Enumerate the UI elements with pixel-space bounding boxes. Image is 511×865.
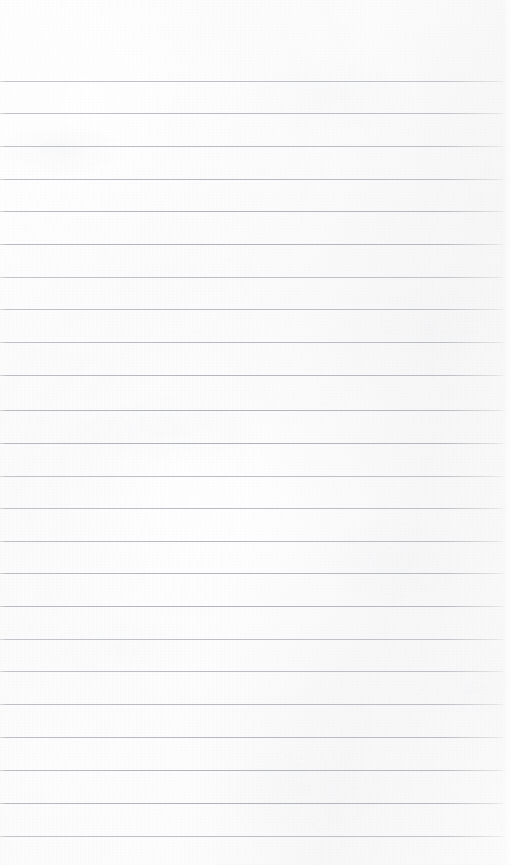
writing-area[interactable]	[0, 0, 511, 865]
notepad-page	[0, 0, 511, 865]
